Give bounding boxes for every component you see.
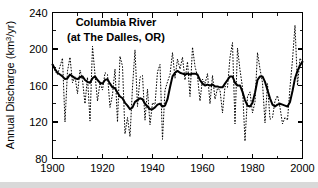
y-tick-label: 80: [35, 153, 47, 165]
y-axis-title: Annual Discharge (km3/yr): [4, 21, 17, 149]
x-tick-label: 1920: [90, 162, 114, 174]
y-tick-label: 200: [29, 43, 47, 55]
plot-title-block: Columbia River (at The Dalles, OR): [67, 16, 165, 43]
y-tick-label: 160: [29, 80, 47, 92]
series-smoothed-discharge: [53, 62, 303, 109]
plot-title-line2: (at The Dalles, OR): [67, 31, 165, 43]
chart-canvas: 190019201940196019802000 80120160200240 …: [0, 0, 318, 188]
plot-title-line1: Columbia River: [76, 16, 157, 28]
y-axis-title-prefix: Annual Discharge (km: [4, 41, 16, 149]
x-tick-labels: 190019201940196019802000: [40, 162, 314, 174]
chart-figure: 190019201940196019802000 80120160200240 …: [0, 0, 318, 188]
figure-bottom-strip: [0, 182, 318, 188]
x-tick-label: 2000: [290, 162, 314, 174]
x-tick-label: 1960: [190, 162, 214, 174]
svg-text:Annual Discharge (km3/yr): Annual Discharge (km3/yr): [4, 21, 17, 149]
x-tick-label: 1980: [240, 162, 264, 174]
y-tick-label: 240: [29, 7, 47, 19]
y-tick-labels: 80120160200240: [29, 7, 47, 165]
y-axis-title-suffix: /yr): [4, 21, 16, 37]
y-tick-label: 120: [29, 116, 47, 128]
x-tick-label: 1940: [140, 162, 164, 174]
